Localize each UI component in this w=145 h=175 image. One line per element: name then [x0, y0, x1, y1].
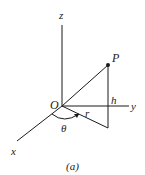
- z-axis-label: z: [58, 9, 64, 21]
- radius-label: r: [85, 107, 90, 119]
- figure-caption: (a): [66, 160, 79, 173]
- point-p-dot: [106, 63, 110, 67]
- cylindrical-coordinates-diagram: z P O h y r θ x (a): [0, 0, 145, 175]
- origin-label: O: [50, 98, 59, 112]
- point-p-label: P: [111, 51, 120, 65]
- position-line-op: [62, 65, 108, 106]
- y-axis-label: y: [130, 100, 136, 112]
- theta-label: θ: [61, 122, 67, 134]
- x-axis-label: x: [10, 145, 16, 157]
- height-label: h: [111, 94, 117, 106]
